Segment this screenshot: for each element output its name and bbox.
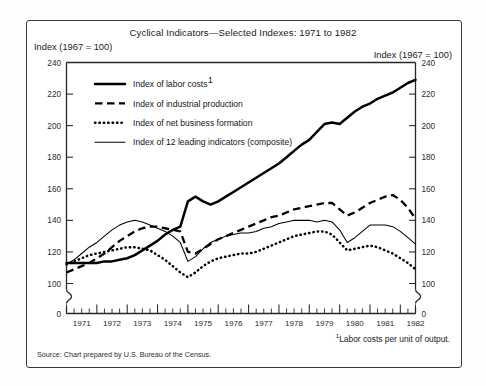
y-axis-labels-right: 1001201401601802002202400 xyxy=(422,59,436,319)
y-tick-label: 120 xyxy=(422,248,436,257)
x-tick-label: 1981 xyxy=(376,319,395,328)
y-tick-label-zero: 0 xyxy=(422,310,427,319)
y-tick-label: 180 xyxy=(47,153,61,162)
legend-label: Index of labor costs xyxy=(133,79,208,89)
y-axis-labels-left: 1001201401601802002202400 xyxy=(47,59,61,319)
series-line xyxy=(67,231,416,277)
y-tick-label: 140 xyxy=(47,216,61,225)
y-tick-label: 160 xyxy=(47,185,61,194)
x-tick-label: 1979 xyxy=(315,319,334,328)
x-tick-label: 1976 xyxy=(224,319,243,328)
y-tick-label: 220 xyxy=(47,90,61,99)
x-tick-label: 1974 xyxy=(164,319,183,328)
y-tick-label: 140 xyxy=(422,216,436,225)
data-series xyxy=(67,80,416,277)
x-tick-label: 1978 xyxy=(285,319,304,328)
y-tick-label: 100 xyxy=(422,280,436,289)
x-tick-label: 1973 xyxy=(133,319,152,328)
legend-label: Index of industrial production xyxy=(133,99,243,109)
y-tick-label: 100 xyxy=(47,280,61,289)
x-tick-label: 1977 xyxy=(255,319,274,328)
y-tick-label: 200 xyxy=(422,122,436,131)
x-tick-label: 1971 xyxy=(73,319,92,328)
y-tick-label-zero: 0 xyxy=(56,310,61,319)
y-tick-label: 200 xyxy=(47,122,61,131)
y-tick-label: 180 xyxy=(422,153,436,162)
source-note: Source: Chart prepared by U.S. Bureau of… xyxy=(37,350,211,359)
x-tick-label: 1982 xyxy=(406,319,425,328)
y-tick-label: 240 xyxy=(47,59,61,68)
x-axis-labels: 1971197219731974197519761977197819791980… xyxy=(73,319,425,328)
chart-legend: Index of labor costs1Index of industrial… xyxy=(95,75,292,147)
x-tick-label: 1980 xyxy=(346,319,365,328)
footnote-text: Labor costs per unit of output. xyxy=(339,334,450,344)
y-tick-label: 120 xyxy=(47,248,61,257)
x-tick-label: 1972 xyxy=(103,319,122,328)
y-tick-label: 220 xyxy=(422,90,436,99)
x-tick-label: 1975 xyxy=(194,319,213,328)
legend-footnote-marker: 1 xyxy=(208,75,213,85)
axes xyxy=(67,63,421,314)
legend-label: Index of net business formation xyxy=(133,118,253,128)
y-tick-label: 160 xyxy=(422,185,436,194)
chart-plot: 1001201401601802002202400 10012014016018… xyxy=(0,0,486,386)
legend-label: Index of 12 leading indicators (composit… xyxy=(133,137,292,147)
y-tick-label: 240 xyxy=(422,59,436,68)
chart-page: Cyclical Indicators—Selected Indexes: 19… xyxy=(0,0,486,386)
footnote: 1Labor costs per unit of output. xyxy=(336,333,450,344)
